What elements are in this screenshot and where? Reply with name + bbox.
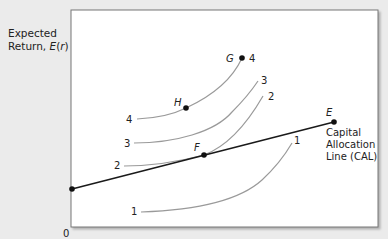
point-e [331, 119, 337, 125]
point-f-label: F [194, 142, 200, 153]
diagram-svg: E F G 4 H 1 1 2 2 3 3 4 Capital Allocati… [0, 0, 388, 239]
point-g-curve-label: 4 [249, 53, 255, 64]
cal-label-line2: Allocation [326, 139, 375, 150]
point-g-label: G [226, 53, 234, 64]
point-e-label: E [326, 107, 333, 118]
curve-1-label: 1 [131, 206, 137, 217]
cal-label-line1: Capital [326, 127, 361, 138]
point-f [201, 152, 207, 158]
cal-label-line3: Line (CAL) [326, 151, 377, 162]
origin-label: 0 [63, 228, 69, 239]
point-intercept [69, 186, 75, 192]
cal-indifference-diagram: Expected Return, E(r) E F G 4 H 1 1 [0, 0, 388, 239]
point-g [239, 55, 245, 61]
curve-2-label: 2 [114, 160, 120, 171]
curve-4-label: 4 [126, 114, 132, 125]
point-h [183, 105, 189, 111]
curve-3-end-label: 3 [261, 75, 267, 86]
curve-3-label: 3 [124, 138, 130, 149]
curve-1-end-label: 1 [294, 135, 300, 146]
curve-2-end-label: 2 [268, 91, 274, 102]
point-h-label: H [174, 97, 182, 108]
